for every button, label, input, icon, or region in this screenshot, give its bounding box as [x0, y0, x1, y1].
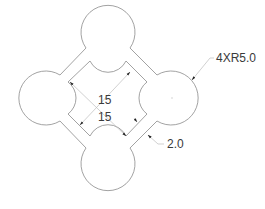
circle-bottom	[81, 148, 135, 191]
center-mark	[171, 97, 173, 99]
technical-drawing: 15 15 4XR5.0 2.0	[0, 0, 265, 209]
circle-right	[157, 71, 198, 125]
dimension-label-wall: 2.0	[167, 137, 184, 151]
dimension-label-15-a: 15	[98, 93, 112, 107]
dimension-label-radius: 4XR5.0	[216, 51, 256, 65]
dimension-lines	[70, 58, 214, 144]
dimension-label-15-b: 15	[98, 110, 112, 124]
circle-left	[19, 71, 60, 125]
circle-top	[81, 5, 135, 48]
